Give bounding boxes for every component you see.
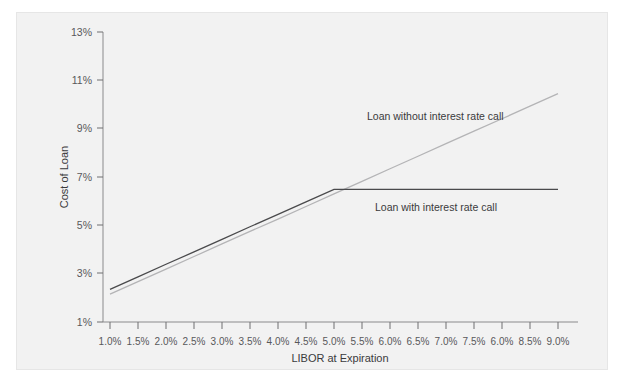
series-line-loan-without-call — [110, 94, 558, 295]
y-tick-label-13: 13% — [71, 26, 92, 38]
annotation-loan-with-call: Loan with interest rate call — [375, 201, 497, 213]
x-tick-label-13: 7.5% — [463, 336, 486, 347]
x-tick-label-7: 4.5% — [295, 336, 318, 347]
y-tick-label-1: 1% — [77, 316, 92, 328]
chart-canvas: 13% 11% 9% 7% 5% 3% 1% Cost of Loan — [0, 0, 624, 386]
figure-container: 13% 11% 9% 7% 5% 3% 1% Cost of Loan — [0, 0, 624, 386]
x-tick-label-12: 7.0% — [435, 336, 458, 347]
x-tick-label-8: 5.0% — [323, 336, 346, 347]
y-tick-label-11: 11% — [72, 74, 92, 86]
x-tick-label-2: 2.0% — [155, 336, 178, 347]
x-axis: 1.0% 1.5% 2.0% 2.5% 3.0% 3.5% 4.0% 4.5% … — [99, 322, 578, 364]
y-tick-label-5: 5% — [77, 219, 92, 231]
x-tick-label-5: 3.5% — [239, 336, 262, 347]
x-axis-title: LIBOR at Expiration — [291, 352, 388, 364]
x-tick-label-9: 5.5% — [351, 336, 374, 347]
x-axis-tick-labels: 1.0% 1.5% 2.0% 2.5% 3.0% 3.5% 4.0% 4.5% … — [99, 336, 570, 347]
y-axis-tick-labels: 13% 11% 9% 7% 5% 3% 1% — [71, 26, 92, 328]
x-tick-label-11: 6.5% — [407, 336, 430, 347]
x-tick-label-4: 3.0% — [211, 336, 234, 347]
x-tick-label-1: 1.5% — [127, 336, 150, 347]
y-axis: 13% 11% 9% 7% 5% 3% 1% Cost of Loan — [58, 26, 103, 328]
x-tick-label-0: 1.0% — [99, 336, 122, 347]
annotation-loan-without-call: Loan without interest rate call — [367, 110, 504, 122]
y-tick-label-7: 7% — [77, 171, 92, 183]
x-tick-label-3: 2.5% — [183, 336, 206, 347]
y-axis-title: Cost of Loan — [58, 146, 70, 208]
x-tick-label-10: 6.0% — [379, 336, 402, 347]
x-tick-label-16: 9.0% — [547, 336, 570, 347]
y-tick-label-9: 9% — [77, 122, 92, 134]
series-group — [110, 94, 558, 295]
y-axis-ticks — [97, 32, 103, 322]
x-tick-label-15: 8.5% — [519, 336, 542, 347]
x-tick-label-6: 4.0% — [267, 336, 290, 347]
x-tick-label-14: 6.0% — [491, 336, 514, 347]
x-axis-ticks — [110, 322, 558, 329]
y-tick-label-3: 3% — [77, 267, 92, 279]
